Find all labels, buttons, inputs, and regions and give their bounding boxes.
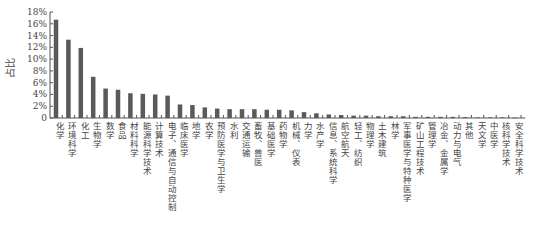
y-tick-label: 6% <box>33 78 48 88</box>
x-category-label: 航空航天 <box>339 121 349 158</box>
bar <box>327 114 332 118</box>
x-category-label: 管理学 <box>426 121 436 149</box>
y-tick-label: 18% <box>27 7 47 17</box>
x-category-label: 药物学 <box>277 121 287 149</box>
x-category-label: 临床医学 <box>178 121 188 158</box>
bar-chart: 02%4%6%8%10%12%14%16%18% 化学环境科学化工生物学数学食品… <box>0 0 534 234</box>
x-category-label: 天文学 <box>476 122 486 149</box>
x-category-label: 农学 <box>203 121 213 140</box>
x-category-label: 军事医学与特种医学 <box>401 122 411 203</box>
x-category-label: 交通运输 <box>240 121 250 158</box>
x-category-label: 林学 <box>389 121 399 140</box>
bar <box>302 112 307 118</box>
x-category-label: 轻工、纺织 <box>352 121 362 167</box>
bar <box>265 110 270 118</box>
bar <box>165 96 170 118</box>
bar <box>314 113 319 118</box>
x-category-label: 水产学 <box>314 121 324 149</box>
x-category-label: 物理学 <box>364 121 374 149</box>
bar <box>252 109 257 118</box>
x-category-label: 数学 <box>104 121 114 140</box>
x-category-label: 冶金、金属学 <box>438 121 448 176</box>
bar <box>277 110 282 118</box>
y-tick-label: 4% <box>33 89 48 99</box>
y-tick-label: 2% <box>33 101 48 111</box>
x-category-label: 环境科学 <box>66 122 76 158</box>
bar <box>116 90 121 118</box>
bar <box>215 109 220 118</box>
bars <box>54 20 517 119</box>
x-category-label: 电子、通信与自动控制 <box>166 121 176 212</box>
x-category-label: 水利 <box>228 121 238 140</box>
x-category-label: 食品 <box>116 121 126 140</box>
x-category-label: 材料科学 <box>128 121 138 158</box>
x-category-label: 基础医学 <box>265 121 275 158</box>
y-tick-label: 10% <box>27 54 47 64</box>
x-category-label: 预防医学与卫生学 <box>215 121 225 194</box>
bar <box>190 105 195 118</box>
x-category-label: 安全科学技术 <box>513 121 523 176</box>
bar <box>66 40 71 118</box>
bar <box>240 109 245 118</box>
x-category-label: 其他 <box>463 122 473 140</box>
bar <box>227 109 232 118</box>
x-category-label: 机械、仪表 <box>290 121 300 167</box>
bar <box>54 20 59 118</box>
x-axis: 化学环境科学化工生物学数学食品材料科学能源科学技术计算技术电子、通信与自动控制临… <box>50 115 525 212</box>
bar <box>103 89 108 118</box>
x-category-label: 中医学 <box>488 121 498 149</box>
x-category-label: 生物学 <box>91 121 101 149</box>
y-tick-label: 12% <box>27 42 47 52</box>
x-category-label: 能源科学技术 <box>141 121 151 176</box>
x-category-label: 化学 <box>54 121 64 140</box>
x-category-label: 矿山工程技术 <box>414 121 424 176</box>
x-category-label: 信息、系统科学 <box>327 121 337 185</box>
y-axis-label: 占比 <box>4 58 16 78</box>
y-tick-label: 14% <box>27 31 47 41</box>
x-category-label: 化工 <box>79 121 89 140</box>
y-tick-label: 16% <box>27 19 47 29</box>
bar <box>141 94 146 118</box>
bar <box>91 77 96 118</box>
y-tick-label: 0 <box>41 113 47 123</box>
bar <box>79 48 84 118</box>
bar <box>178 104 183 118</box>
x-category-label: 核科学技术 <box>500 121 510 167</box>
x-category-label: 地学 <box>190 121 200 140</box>
bar <box>289 110 294 118</box>
y-tick-label: 8% <box>33 66 48 76</box>
x-category-label: 力学 <box>302 121 312 140</box>
y-axis: 02%4%6%8%10%12%14%16%18% <box>27 7 53 123</box>
x-category-label: 计算技术 <box>153 121 163 158</box>
bar <box>203 107 208 118</box>
x-category-label: 畜牧、兽医 <box>252 121 262 167</box>
x-category-label: 动力与电气 <box>451 121 461 167</box>
bar <box>153 94 158 118</box>
bar <box>128 93 133 118</box>
x-category-label: 土木建筑 <box>376 121 386 158</box>
